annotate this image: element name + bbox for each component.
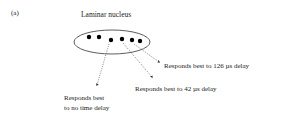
arrow-no-delay — [97, 44, 109, 85]
neuron-dot — [120, 37, 124, 41]
diagram-graphics — [0, 0, 293, 119]
annotation-no-delay: Responds best to no time delay — [64, 93, 109, 113]
neuron-dot — [138, 39, 142, 43]
neuron-dot — [130, 38, 134, 42]
arrow-42us — [123, 43, 152, 77]
annotation-126us: Responds best to 126 µs delay — [164, 62, 249, 71]
annotation-no-delay-line2: to no time delay — [64, 103, 109, 113]
annotation-42us: Responds best to 42 µs delay — [135, 85, 217, 94]
laminar-nucleus-diagram: (a) Laminar nucleus Responds best to 126… — [0, 0, 293, 119]
neuron-dots — [87, 35, 142, 43]
neuron-dot — [109, 38, 113, 42]
panel-label: (a) — [11, 9, 19, 18]
neuron-dot — [87, 35, 91, 39]
annotation-no-delay-line1: Responds best — [64, 93, 109, 103]
neuron-dot — [97, 35, 101, 39]
nucleus-title: Laminar nucleus — [81, 10, 131, 19]
